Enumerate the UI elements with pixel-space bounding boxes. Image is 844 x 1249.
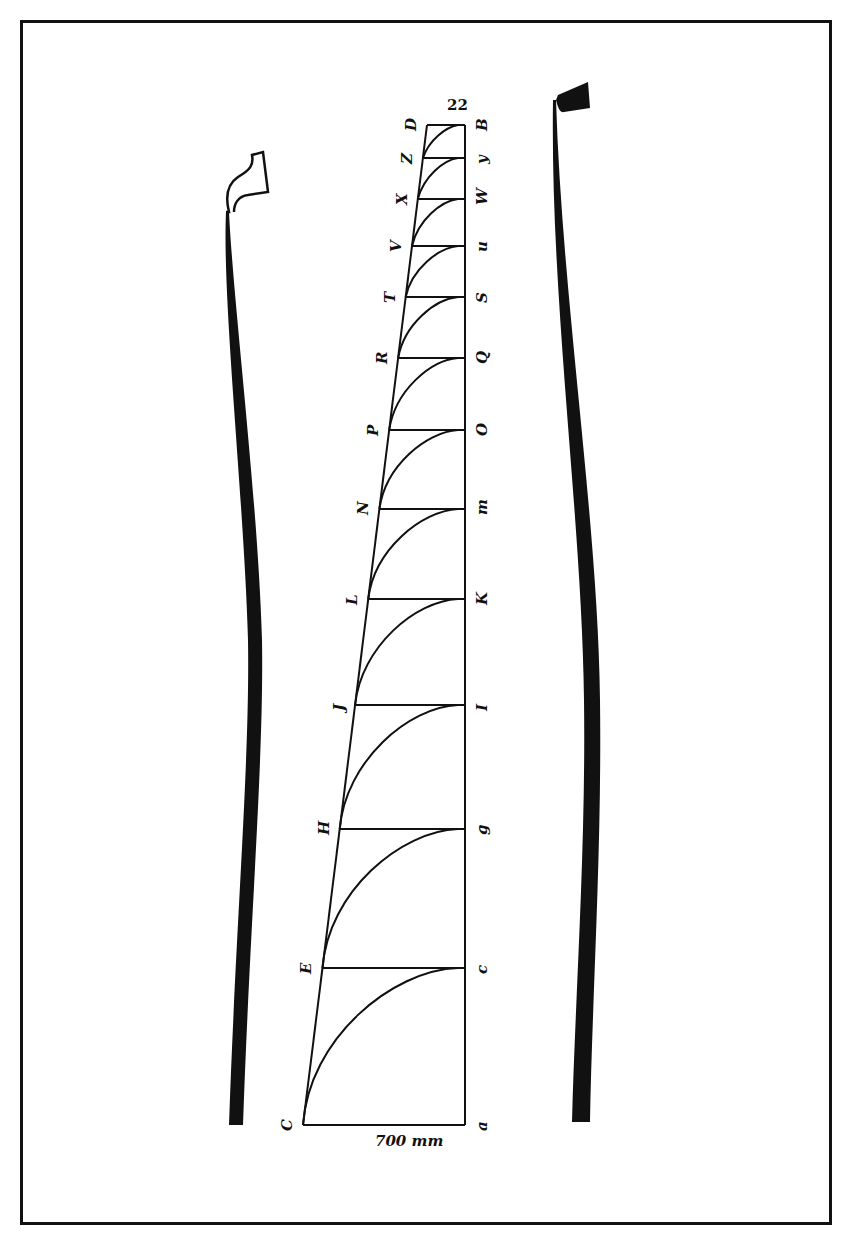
left-label: P — [364, 424, 382, 437]
right-label: I — [473, 703, 491, 712]
right-label: K — [473, 591, 491, 606]
left-bow — [226, 152, 268, 1125]
left-label: V — [387, 239, 405, 252]
right-label: m — [473, 499, 491, 515]
right-label: u — [473, 241, 491, 252]
left-label: T — [381, 290, 399, 303]
left-label: H — [315, 820, 333, 836]
rungs — [303, 125, 465, 1125]
right-label: g — [473, 825, 491, 836]
graduation-diagram — [303, 125, 465, 1125]
base-length-label: 700 mm — [375, 1132, 443, 1150]
labels: DBZyXWVuTSRQPONmLKJIHgEcCa — [278, 118, 491, 1131]
left-label: X — [393, 192, 411, 206]
left-label: E — [297, 962, 315, 975]
bow-diagram: DBZyXWVuTSRQPONmLKJIHgEcCa 22 700 mm — [0, 0, 844, 1249]
right-bow — [553, 82, 600, 1122]
right-label: O — [473, 423, 491, 436]
top-number: 22 — [447, 96, 468, 114]
right-label: B — [473, 118, 491, 132]
right-label: S — [473, 292, 491, 303]
right-label: W — [473, 186, 491, 205]
left-label: Z — [398, 152, 416, 165]
right-label: a — [473, 1121, 491, 1131]
left-label: N — [354, 500, 372, 516]
right-label: c — [473, 965, 491, 974]
left-label: C — [278, 1119, 296, 1131]
left-label: R — [373, 352, 391, 365]
right-label: y — [473, 154, 491, 165]
right-label: Q — [473, 351, 491, 364]
left-label: D — [402, 118, 420, 132]
left-label: J — [330, 703, 348, 714]
left-label: L — [343, 594, 361, 606]
